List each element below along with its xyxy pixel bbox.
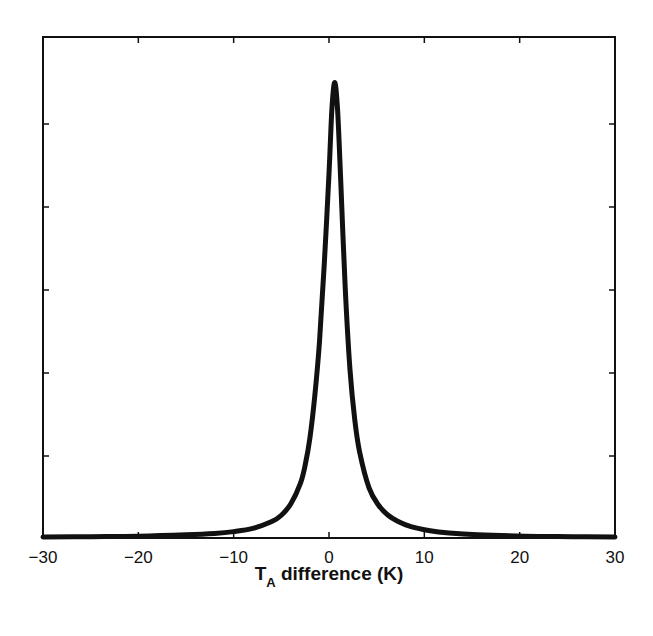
plot-area xyxy=(43,37,615,538)
x-axis-ticks xyxy=(43,37,615,538)
x-axis-label-main: T xyxy=(255,563,267,584)
x-tick-label: −10 xyxy=(219,548,248,567)
x-axis-label: TA difference (K) xyxy=(255,563,404,590)
axes-frame xyxy=(43,37,615,538)
x-tick-label: −30 xyxy=(29,548,58,567)
chart: −30−20−100102030 TA difference (K) xyxy=(0,0,653,636)
x-tick-label: 20 xyxy=(510,548,529,567)
data-line xyxy=(43,83,615,538)
x-axis-label-rest: difference (K) xyxy=(276,563,404,584)
x-tick-label: 30 xyxy=(606,548,625,567)
x-tick-label: −20 xyxy=(124,548,153,567)
x-tick-label: 10 xyxy=(415,548,434,567)
